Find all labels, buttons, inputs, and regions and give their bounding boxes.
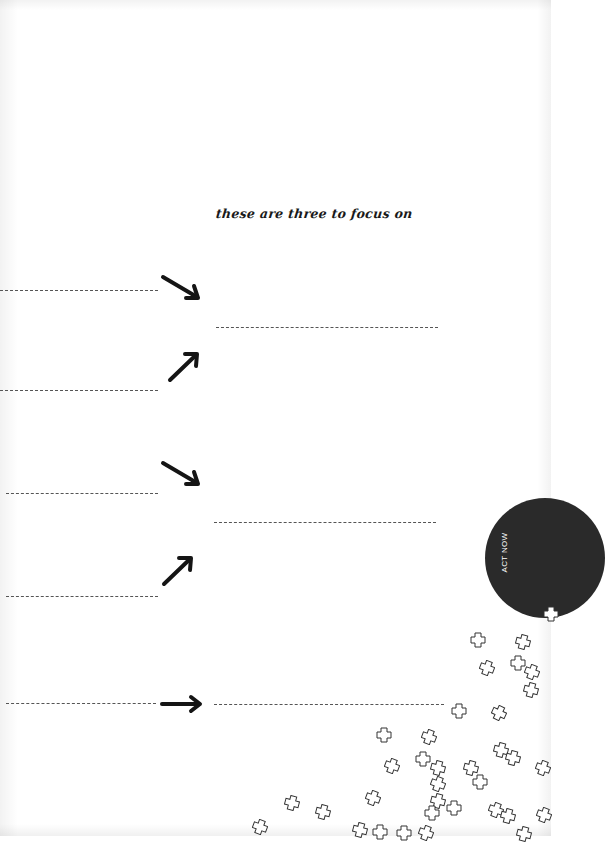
cross-icon xyxy=(252,819,268,835)
cross-icon xyxy=(543,606,559,622)
cross-icon xyxy=(430,776,446,792)
cross-icon xyxy=(384,758,400,774)
arrow-up-right-icon xyxy=(166,350,202,384)
answer-line-left-1[interactable] xyxy=(0,290,158,291)
cross-icon xyxy=(446,800,462,816)
cross-icon xyxy=(523,682,539,698)
worksheet-heading: these are three to focus on xyxy=(215,206,413,221)
cross-icon xyxy=(535,760,551,776)
arrow-right-icon xyxy=(160,694,204,714)
cross-icon xyxy=(451,703,467,719)
cross-icon xyxy=(415,751,431,767)
arrow-up-right-icon xyxy=(160,554,196,588)
cross-icon xyxy=(284,795,300,811)
cross-icon xyxy=(376,727,392,743)
cross-icon xyxy=(500,808,516,824)
cross-icon xyxy=(430,760,446,776)
act-now-label: ACT NOW xyxy=(500,523,509,583)
cross-icon xyxy=(396,825,412,841)
cross-icon xyxy=(515,634,531,650)
focus-line-3[interactable] xyxy=(214,704,444,705)
answer-line-left-2[interactable] xyxy=(0,390,158,391)
arrow-down-right-icon xyxy=(160,272,204,304)
arrow-down-right-icon xyxy=(160,458,204,490)
cross-icon xyxy=(505,750,521,766)
cross-icon xyxy=(536,807,552,823)
cross-icon xyxy=(524,664,540,680)
cross-icon xyxy=(472,774,488,790)
cross-icon xyxy=(418,825,434,841)
cross-icon xyxy=(516,826,532,842)
cross-icon xyxy=(315,804,331,820)
cross-icon xyxy=(421,729,437,745)
cross-icon xyxy=(352,822,368,838)
cross-icon xyxy=(470,632,486,648)
answer-line-left-3[interactable] xyxy=(6,493,158,494)
answer-line-left-5[interactable] xyxy=(6,703,156,704)
cross-icon xyxy=(424,805,440,821)
cross-icon xyxy=(372,824,388,840)
cross-icon xyxy=(365,790,381,806)
answer-line-left-4[interactable] xyxy=(6,596,158,597)
cross-icon xyxy=(491,705,507,721)
cross-icon xyxy=(479,660,495,676)
focus-line-1[interactable] xyxy=(216,327,438,328)
focus-line-2[interactable] xyxy=(214,522,436,523)
